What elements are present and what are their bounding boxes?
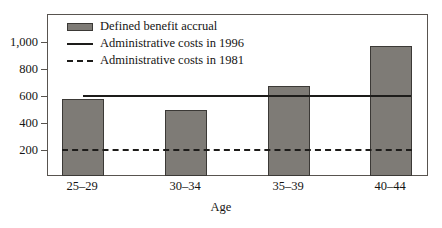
legend-label-admin-costs-1981: Administrative costs in 1981 [100,54,244,67]
plot-area: Defined benefit accrual Administrative c… [47,14,428,176]
legend-label-defined-benefit-accrual: Defined benefit accrual [100,20,217,33]
x-axis-title: Age [0,201,442,214]
legend-item-defined-benefit-accrual: Defined benefit accrual [67,18,244,35]
legend-item-admin-costs-1981: Administrative costs in 1981 [67,52,244,69]
legend-item-admin-costs-1996: Administrative costs in 1996 [67,35,244,52]
chart-figure: 1,000 800 600 400 200 Defined benefit ac… [0,0,442,228]
reference-line-1996 [83,95,411,97]
y-tick-label-600: 600 [19,90,38,103]
x-tick-label-25-29: 25–29 [42,180,122,193]
reference-line-1981 [62,149,412,151]
bar-30-34 [165,110,207,176]
bar-35-39 [268,86,310,176]
y-tick-label-800: 800 [19,63,38,76]
bar-40-44 [370,46,412,176]
legend-solid-line-icon [67,37,93,51]
bar-25-29 [62,99,104,176]
y-tick-label-400: 400 [19,117,38,130]
x-tick-label-30-34: 30–34 [145,180,225,193]
legend-label-admin-costs-1996: Administrative costs in 1996 [100,37,244,50]
legend: Defined benefit accrual Administrative c… [67,18,244,69]
y-tick-label-1000: 1,000 [10,36,38,49]
legend-swatch-icon [67,20,93,34]
y-tick-label-200: 200 [19,144,38,157]
x-tick-label-35-39: 35–39 [248,180,328,193]
legend-dashed-line-icon [67,54,93,68]
x-tick-label-40-44: 40–44 [350,180,430,193]
